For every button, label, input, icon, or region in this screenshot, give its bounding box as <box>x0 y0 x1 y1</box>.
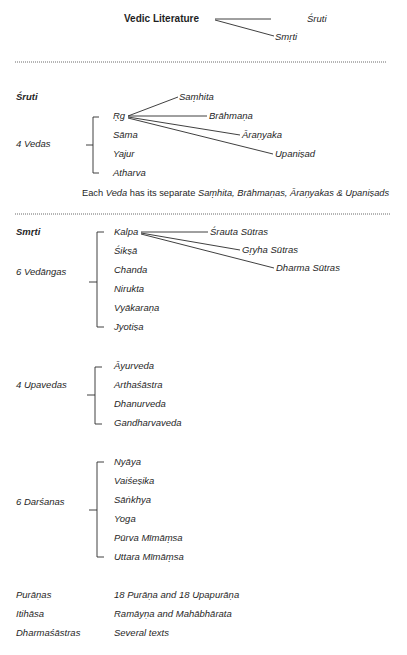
branch-node-sruti: Śruti <box>307 13 327 25</box>
note-veda: Veda <box>106 188 127 198</box>
upaveda-item: Dhanurveda <box>114 398 166 410</box>
upaveda-item: Gandharvaveda <box>114 417 182 429</box>
group-label-vedas: 4 Vedas <box>16 138 51 150</box>
veda-item: Atharva <box>113 167 146 179</box>
vedas-note: Each Veda has its separate Saṃhita, Brāh… <box>82 187 389 199</box>
root-node-vedic-literature: Vedic Literature <box>124 13 199 25</box>
section-heading-sruti: Śruti <box>16 91 38 103</box>
rg-branch-aranyaka: Āraṇyaka <box>242 129 282 141</box>
note-parts: Saṃhita, Brāhmaṇas, Āraṇyakas & Upaniṣad… <box>198 188 389 198</box>
rg-branch-brahmana: Brāhmaṇa <box>209 110 253 122</box>
other-label-itihasa: Itihāsa <box>16 608 44 620</box>
other-value-itihasa: Ramāyṇa and Mahābhārata <box>114 608 232 620</box>
darsana-item: Pūrva Mīmāṃsa <box>114 532 183 544</box>
rg-branch-samhita: Saṃhita <box>179 91 214 103</box>
vedanga-item: Kalpa <box>114 226 138 238</box>
bracket-upavedas <box>87 367 102 424</box>
bracket-vedangas <box>89 232 104 327</box>
darsana-item: Yoga <box>114 513 136 525</box>
darsana-item: Uttara Mīmāṃsa <box>114 551 184 563</box>
connector-rg-samhita <box>128 97 178 116</box>
kalpa-branch-grhya: Gṛyha Sūtras <box>242 244 298 256</box>
darsana-item: Nyāya <box>114 456 141 468</box>
rg-branch-upanisad: Upaniṣad <box>275 148 315 160</box>
veda-item: Sāma <box>113 129 138 141</box>
other-value-dharmasastras: Several texts <box>114 627 169 639</box>
veda-item: Yajur <box>113 148 134 160</box>
vedanga-item: Chanda <box>114 264 147 276</box>
kalpa-branch-srauta: Śrauta Sūtras <box>210 226 268 238</box>
vedanga-item: Jyotiṣa <box>114 321 144 333</box>
note-prefix: Each <box>82 188 106 198</box>
group-label-vedangas: 6 Vedāngas <box>16 266 66 278</box>
connector-vedic-smrti <box>215 20 274 36</box>
vedanga-item: Śikṣā <box>114 245 137 257</box>
darsana-item: Sāṅkhya <box>114 494 151 506</box>
bracket-darsanas <box>89 462 104 557</box>
branch-node-smrti: Smṛti <box>275 31 297 43</box>
vedanga-item: Nirukta <box>114 283 144 295</box>
bracket-vedas <box>86 117 99 173</box>
upaveda-item: Arthaśāstra <box>114 379 163 391</box>
group-label-darsanas: 6 Darśanas <box>16 496 65 508</box>
vedanga-item: Vyākaraṇa <box>114 302 159 314</box>
other-label-puranas: Purāṇas <box>16 589 51 601</box>
kalpa-branch-dharma: Dharma Sūtras <box>276 262 340 274</box>
darsana-item: Vaiśeṣika <box>114 475 154 487</box>
group-label-upavedas: 4 Upavedas <box>16 379 67 391</box>
veda-item: Ṛg <box>113 110 125 122</box>
section-heading-smrti: Smṛti <box>16 226 40 238</box>
note-middle: has its separate <box>127 188 198 198</box>
other-value-puranas: 18 Purāṇa and 18 Upapurāṇa <box>114 589 239 601</box>
upaveda-item: Āyurveda <box>114 360 154 372</box>
other-label-dharmasastras: Dharmaśāstras <box>16 627 80 639</box>
